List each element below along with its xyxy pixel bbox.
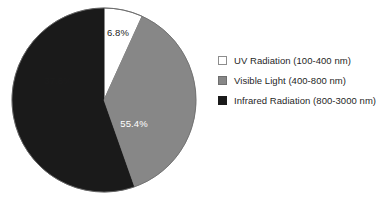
legend-swatch-icon-visible-light: [218, 76, 227, 85]
pie-slices-group: [12, 8, 196, 192]
legend-item-infrared-radiation[interactable]: Infrared Radiation (800-3000 nm): [218, 90, 392, 110]
chart-legend: UV Radiation (100-400 nm) Visible Light …: [218, 50, 392, 110]
pie-chart-plot-area: 6.8%37.8%55.4%: [0, 0, 212, 199]
legend-item-uv-radiation[interactable]: UV Radiation (100-400 nm): [218, 50, 392, 70]
legend-label-visible-light: Visible Light (400-800 nm): [234, 75, 346, 86]
legend-item-visible-light[interactable]: Visible Light (400-800 nm): [218, 70, 392, 90]
pie-chart-svg: 6.8%37.8%55.4%: [0, 0, 212, 199]
legend-swatch-icon-infrared-radiation: [218, 96, 227, 105]
legend-swatch-icon-uv-radiation: [218, 56, 227, 65]
pie-data-label-uv-radiation: 6.8%: [107, 27, 130, 38]
pie-data-label-infrared-radiation: 55.4%: [120, 118, 148, 129]
legend-label-infrared-radiation: Infrared Radiation (800-3000 nm): [234, 95, 376, 106]
pie-data-label-visible-light: 37.8%: [44, 75, 72, 86]
pie-chart-figure: 6.8%37.8%55.4% UV Radiation (100-400 nm)…: [0, 0, 392, 199]
legend-label-uv-radiation: UV Radiation (100-400 nm): [234, 55, 351, 66]
